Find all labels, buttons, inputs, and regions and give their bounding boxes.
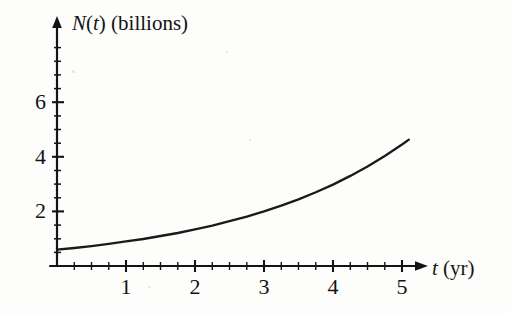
- y-axis-label-function: N: [72, 11, 86, 35]
- x-tick-label-3: 3: [252, 276, 276, 298]
- scan-speck: [72, 70, 75, 73]
- exponential-growth-curve: [57, 140, 409, 250]
- y-tick-label-4: 4: [24, 146, 46, 168]
- y-axis-label-argument: (t): [86, 11, 106, 35]
- y-tick-label-2: 2: [24, 200, 46, 222]
- scan-speck: [148, 286, 151, 288]
- x-tick-label-4: 4: [321, 276, 345, 298]
- population-growth-figure: 6 4 2 1 2 3 4 5 N(t) (billions) t (yr): [0, 0, 511, 314]
- scan-speck: [226, 51, 228, 53]
- y-axis-label-variable: t: [93, 11, 99, 35]
- x-tick-label-2: 2: [183, 276, 207, 298]
- y-axis-label-units: (billions): [106, 11, 188, 35]
- scan-speck: [249, 139, 251, 141]
- x-tick-label-1: 1: [114, 276, 138, 298]
- x-axis-label-units: (yr): [438, 256, 475, 280]
- x-axis: [50, 261, 428, 271]
- x-tick-label-5: 5: [390, 276, 414, 298]
- y-axis: [52, 16, 62, 266]
- x-axis-label: t (yr): [432, 258, 475, 279]
- y-axis-label: N(t) (billions): [72, 13, 188, 34]
- y-tick-label-6: 6: [24, 91, 46, 113]
